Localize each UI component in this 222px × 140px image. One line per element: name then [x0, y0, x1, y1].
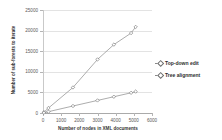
legend-item-label: Tree alignment — [164, 72, 200, 79]
data-point-marker — [129, 91, 132, 94]
x-axis-title: Number of nodes in XML documents — [30, 126, 166, 132]
legend-item-top-down-edit[interactable]: Top-down edit — [155, 58, 221, 68]
data-point-marker — [71, 104, 74, 107]
series-line — [44, 27, 136, 112]
line-marker-icon — [155, 59, 164, 68]
series-tree-alignment — [42, 90, 137, 115]
y-axis-title: Number of sub-forests to iterate — [9, 8, 18, 112]
data-point-marker — [96, 99, 99, 102]
data-point-marker — [112, 95, 115, 98]
series-top-down-edit — [42, 25, 137, 114]
chart-legend: Top-down edit Tree alignment — [155, 58, 221, 82]
line-chart: 0500010000150002000025000 01000200030004… — [0, 0, 222, 140]
legend-item-label: Top-down edit — [164, 60, 199, 67]
data-point-marker — [47, 110, 50, 113]
legend-item-tree-alignment[interactable]: Tree alignment — [155, 70, 221, 80]
line-marker-icon — [155, 71, 164, 80]
series-line — [44, 92, 136, 113]
data-point-marker — [134, 90, 137, 93]
